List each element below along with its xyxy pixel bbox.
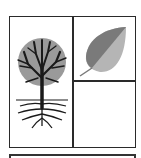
vertical-divider (72, 16, 74, 148)
leaf-icon (76, 24, 132, 78)
horizontal-divider (72, 80, 136, 82)
tree-with-roots-icon (14, 38, 70, 130)
next-figure-frame (9, 154, 136, 158)
